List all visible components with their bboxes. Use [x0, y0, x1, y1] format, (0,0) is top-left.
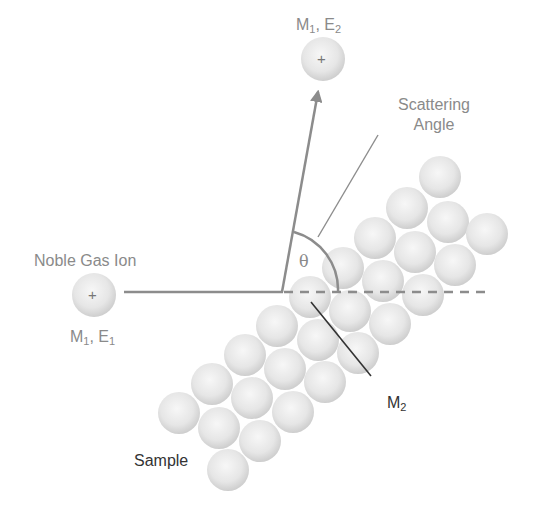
sample-atom [362, 260, 404, 302]
sample-atom [427, 201, 469, 243]
sample-atom [239, 420, 281, 462]
sample-atom [198, 407, 240, 449]
sample-atom [264, 348, 306, 390]
sample-atom [329, 290, 371, 332]
sample-atom [191, 363, 233, 405]
sample-atom [272, 391, 314, 433]
sample-atom [158, 392, 200, 434]
scattered-ion-plus-icon: + [317, 51, 326, 66]
sample-atom [289, 276, 331, 318]
sample-atom [231, 377, 273, 419]
sample-atom [304, 361, 346, 403]
theta-symbol: θ [299, 254, 309, 270]
sample-atom [402, 274, 444, 316]
sample-atom [369, 303, 411, 345]
sample-atom [337, 332, 379, 374]
sample-atom [419, 156, 461, 198]
sample-atom [434, 244, 476, 286]
target-atom-label: M2 [387, 395, 406, 411]
sample-atom [256, 305, 298, 347]
sample-atom-lattice [158, 156, 508, 491]
sample-atom [224, 334, 266, 376]
sample-atom [354, 217, 396, 259]
sample-atom [386, 187, 428, 229]
sample-atom [297, 319, 339, 361]
scattering-angle-label: Scattering Angle [384, 95, 484, 135]
sample-atom [466, 213, 508, 255]
incident-ion-plus-icon: + [88, 287, 97, 302]
ion-scattering-diagram: + + M1, E2 Scattering Angle θ Noble Gas … [0, 0, 537, 509]
sample-atom [207, 449, 249, 491]
incident-ion-title: Noble Gas Ion [34, 253, 136, 269]
sample-atom [394, 231, 436, 273]
scattered-ion-label: M1, E2 [296, 17, 341, 33]
sample-atom [322, 247, 364, 289]
sample-label: Sample [134, 453, 188, 469]
incident-ion-label: M1, E1 [70, 329, 115, 345]
